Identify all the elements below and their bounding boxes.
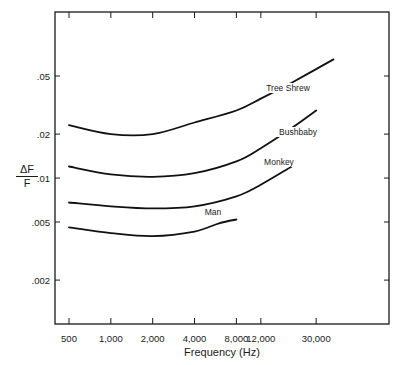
series-label: Monkey	[264, 157, 295, 167]
series-label: Man	[205, 207, 222, 217]
chart: 5001,0002,0004,0008,00012,00030,000.05.0…	[0, 0, 400, 365]
y-tick-label: .002	[32, 275, 51, 286]
x-axis-title: Frequency (Hz)	[184, 346, 260, 358]
series-label: Bushbaby	[279, 127, 318, 137]
y-tick-label: .01	[37, 173, 50, 184]
x-tick-label: 8,000	[224, 333, 248, 344]
plot-area: 5001,0002,0004,0008,00012,00030,000.05.0…	[0, 0, 400, 365]
x-tick-label: 2,000	[141, 333, 165, 344]
x-tick-label: 4,000	[183, 333, 207, 344]
x-tick-label: 30,000	[302, 333, 331, 344]
y-axis-label-numerator: ΔF	[16, 163, 38, 177]
y-tick-label: .005	[32, 217, 51, 228]
x-tick-label: 12,000	[246, 333, 275, 344]
x-tick-label: 500	[61, 333, 77, 344]
plot-frame	[55, 12, 389, 324]
series-label: Tree Shrew	[266, 83, 310, 93]
y-axis-label: ΔF F	[16, 163, 38, 189]
y-tick-label: .05	[37, 71, 50, 82]
y-axis-label-denominator: F	[16, 177, 38, 189]
curve-tree-shrew	[69, 59, 334, 135]
y-tick-label: .02	[37, 129, 50, 140]
curve-man	[69, 220, 236, 237]
x-tick-label: 1,000	[99, 333, 123, 344]
